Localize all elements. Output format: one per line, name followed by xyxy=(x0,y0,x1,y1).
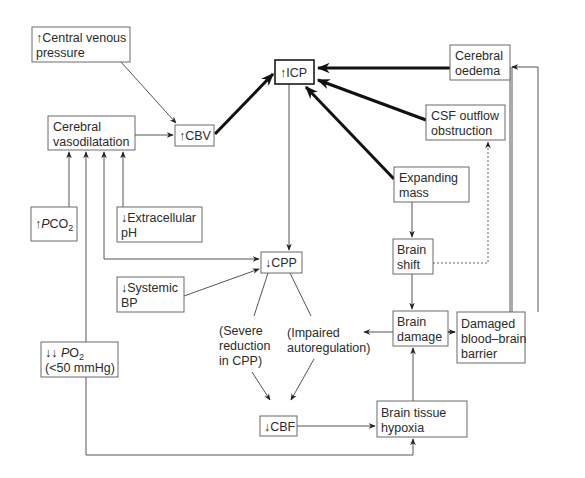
svg-text:Cerebral: Cerebral xyxy=(455,49,503,63)
svg-text:↑Central venous: ↑Central venous xyxy=(36,31,126,45)
node-central-venous-pressure: ↑Central venous pressure xyxy=(32,27,130,62)
node-brain-shift: Brain shift xyxy=(393,239,433,274)
arrow-bbb-to-oedema-top xyxy=(512,67,538,312)
svg-text:Cerebral: Cerebral xyxy=(53,120,101,134)
svg-text:vasodilatation: vasodilatation xyxy=(53,135,129,149)
node-expanding-mass: Expanding mass xyxy=(394,167,469,202)
node-csf-outflow-obstruction: CSF outflow obstruction xyxy=(426,105,505,140)
node-bp-line1: ↓Systemic xyxy=(121,281,178,295)
node-ph-line2: pH xyxy=(121,226,137,240)
svg-text:mass: mass xyxy=(399,186,429,200)
node-csf-line1: CSF outflow xyxy=(431,109,500,123)
node-brain-tissue-hypoxia: Brain tissue hypoxia xyxy=(377,401,467,437)
node-po2-main: O xyxy=(69,346,79,360)
svg-text:pH: pH xyxy=(121,226,137,240)
svg-text:↓CBF: ↓CBF xyxy=(264,420,296,434)
node-cbv: ↑CBV xyxy=(175,125,214,146)
arrow-po2-to-hypoxia xyxy=(86,377,413,455)
arrow-cvp-to-cbv xyxy=(121,62,176,123)
node-cerebral-vasodilatation: Cerebral vasodilatation xyxy=(48,116,135,150)
node-cpp: ↓CPP xyxy=(261,252,302,273)
node-damage-line2: damage xyxy=(397,330,442,344)
node-shift-line2: shift xyxy=(397,258,420,272)
node-bbb-line1: Damaged xyxy=(461,317,515,331)
label-impaired-line1: (Impaired xyxy=(287,326,340,340)
svg-text:Damaged: Damaged xyxy=(461,317,515,331)
icp-pathophysiology-diagram: ↑Central venous pressure Cerebral vasodi… xyxy=(0,0,585,478)
line-cpp-to-severe xyxy=(254,273,268,316)
node-po2: ↓↓ PO2 (<50 mmHg) xyxy=(41,342,118,377)
node-bbb-line3: barrier xyxy=(461,347,497,361)
svg-text:pressure: pressure xyxy=(36,46,85,60)
svg-text:Brain: Brain xyxy=(397,243,426,257)
node-pco2-sub: 2 xyxy=(68,223,73,233)
label-severe-reduction: (Severe reduction in CPP) xyxy=(219,324,270,368)
node-oedema-line1: Cerebral xyxy=(455,49,503,63)
svg-text:reduction: reduction xyxy=(219,339,270,353)
node-po2-line2: (<50 mmHg) xyxy=(45,361,115,375)
arrow-bp-to-cpp xyxy=(184,269,259,296)
node-cpp-label: ↓CPP xyxy=(265,256,297,270)
svg-text:in CPP): in CPP) xyxy=(219,354,262,368)
node-icp: ↑ICP xyxy=(275,60,314,84)
svg-text:↑CBV: ↑CBV xyxy=(179,129,212,143)
node-cbv-label: ↑CBV xyxy=(179,129,212,143)
svg-text:(Severe: (Severe xyxy=(219,324,263,338)
node-oedema-line2: oedema xyxy=(455,64,500,78)
svg-text:↓↓ PO2: ↓↓ PO2 xyxy=(45,346,84,362)
node-icp-label: ↑ICP xyxy=(280,66,307,80)
line-cpp-to-impaired xyxy=(290,273,311,316)
arrow-bbb-to-oedema xyxy=(512,67,513,312)
svg-text:(Impaired: (Impaired xyxy=(287,326,340,340)
svg-text:shift: shift xyxy=(397,258,420,272)
svg-text:obstruction: obstruction xyxy=(431,124,492,138)
node-hypoxia-line2: hypoxia xyxy=(381,421,424,435)
svg-text:↑ICP: ↑ICP xyxy=(280,66,307,80)
svg-text:autoregulation): autoregulation) xyxy=(287,341,370,355)
svg-text:Brain: Brain xyxy=(397,315,426,329)
svg-text:CSF outflow: CSF outflow xyxy=(431,109,500,123)
svg-text:damage: damage xyxy=(397,330,442,344)
node-po2-prefix: ↓↓ xyxy=(45,346,61,360)
svg-text:↓Systemic: ↓Systemic xyxy=(121,281,178,295)
node-csf-line2: obstruction xyxy=(431,124,492,138)
node-bp-line2: BP xyxy=(121,296,138,310)
svg-text:barrier: barrier xyxy=(461,347,497,361)
label-severe-line2: reduction xyxy=(219,339,270,353)
node-cbf-label: ↓CBF xyxy=(264,420,296,434)
svg-text:Brain tissue: Brain tissue xyxy=(381,406,446,420)
node-cvp-line1: ↑Central venous xyxy=(36,31,126,45)
arrow-impaired-to-cbf xyxy=(291,359,314,400)
node-brain-damage: Brain damage xyxy=(393,311,448,346)
label-severe-line1: (Severe xyxy=(219,324,263,338)
node-damage-line1: Brain xyxy=(397,315,426,329)
node-cbf: ↓CBF xyxy=(260,416,297,436)
svg-text:Expanding: Expanding xyxy=(399,171,458,185)
node-bbb-line2: blood–brain xyxy=(461,332,526,346)
node-ph-line1: ↓Extracellular xyxy=(121,211,196,225)
arrow-csf-to-icp xyxy=(318,80,426,120)
svg-text:hypoxia: hypoxia xyxy=(381,421,424,435)
svg-text:(<50 mmHg): (<50 mmHg) xyxy=(45,361,115,375)
node-extracellular-ph: ↓Extracellular pH xyxy=(117,207,202,242)
svg-text:↑PCO2: ↑PCO2 xyxy=(35,217,73,233)
label-impaired-autoregulation: (Impaired autoregulation) xyxy=(287,326,370,355)
svg-text:↓CPP: ↓CPP xyxy=(265,256,297,270)
svg-text:oedema: oedema xyxy=(455,64,500,78)
label-severe-line3: in CPP) xyxy=(219,354,262,368)
arrow-mass-to-icp xyxy=(306,87,394,179)
arrow-cbv-to-icp xyxy=(215,74,273,134)
node-vasodilatation-line1: Cerebral xyxy=(53,120,101,134)
node-damaged-bbb: Damaged blood–brain barrier xyxy=(457,312,526,363)
arrow-severe-to-cbf xyxy=(252,372,270,400)
label-impaired-line2: autoregulation) xyxy=(287,341,370,355)
node-vasodilatation-line2: vasodilatation xyxy=(53,135,129,149)
node-mass-line1: Expanding xyxy=(399,171,458,185)
svg-text:blood–brain: blood–brain xyxy=(461,332,526,346)
node-mass-line2: mass xyxy=(399,186,429,200)
node-shift-line1: Brain xyxy=(397,243,426,257)
node-systemic-bp: ↓Systemic BP xyxy=(117,277,184,312)
arrow-vasodilatation-cpp xyxy=(104,152,259,259)
node-cvp-line2: pressure xyxy=(36,46,85,60)
svg-text:BP: BP xyxy=(121,296,138,310)
